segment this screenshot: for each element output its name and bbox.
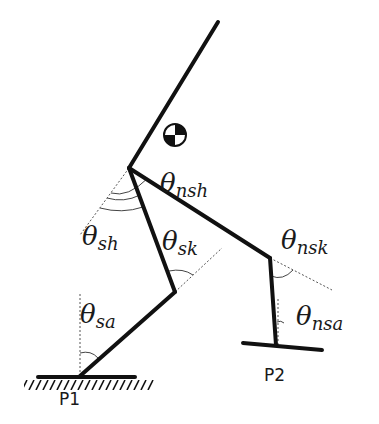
swing-shank-link bbox=[270, 258, 276, 345]
label-theta-nsh: θnsh bbox=[160, 168, 208, 201]
arc-theta-sk bbox=[169, 270, 193, 275]
center-of-mass-icon bbox=[164, 124, 186, 146]
label-theta-sh: θsh bbox=[82, 221, 119, 254]
arc-theta-nsk bbox=[271, 270, 293, 278]
arc-theta-nsa bbox=[277, 321, 284, 323]
arc-theta-nsh bbox=[111, 178, 148, 194]
swing-foot bbox=[243, 343, 322, 350]
label-p1: P1 bbox=[59, 389, 80, 409]
label-theta-nsk: θnsk bbox=[281, 225, 328, 258]
biped-diagram: θnsh θsh θsk θnsk θsa θnsa P1 P2 bbox=[0, 0, 379, 424]
label-p2: P2 bbox=[264, 365, 285, 385]
arc-theta-sa bbox=[80, 352, 98, 358]
label-theta-sa: θsa bbox=[80, 299, 116, 332]
arc-theta-sh-outer bbox=[100, 207, 143, 211]
swing-knee-guide-line bbox=[270, 258, 332, 290]
label-theta-sk: θsk bbox=[162, 226, 198, 259]
ground-hatching bbox=[24, 380, 154, 390]
label-theta-nsa: θnsa bbox=[296, 301, 343, 334]
arc-theta-sh-inner bbox=[107, 195, 140, 200]
